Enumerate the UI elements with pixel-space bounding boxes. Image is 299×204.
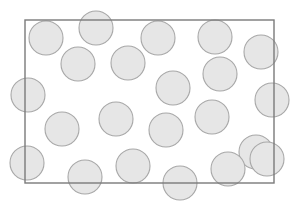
- circle-marker: [149, 113, 183, 147]
- circle-marker: [141, 21, 175, 55]
- circle-marker: [29, 21, 63, 55]
- circle-marker: [156, 71, 190, 105]
- circle-marker: [11, 78, 45, 112]
- circle-marker: [250, 142, 284, 176]
- circle-marker: [198, 20, 232, 54]
- circle-marker: [211, 152, 245, 186]
- figure-canvas: [0, 0, 299, 204]
- circle-marker: [195, 100, 229, 134]
- circle-marker: [10, 146, 44, 180]
- circle-marker: [79, 11, 113, 45]
- circle-marker: [45, 112, 79, 146]
- circle-marker: [111, 46, 145, 80]
- circle-marker: [203, 57, 237, 91]
- circle-marker: [255, 83, 289, 117]
- circle-marker: [99, 102, 133, 136]
- circle-marker: [68, 160, 102, 194]
- circle-marker: [244, 35, 278, 69]
- circle-marker: [61, 47, 95, 81]
- circle-layer: [10, 11, 289, 200]
- circle-marker: [116, 149, 150, 183]
- circle-field-diagram: [0, 0, 299, 204]
